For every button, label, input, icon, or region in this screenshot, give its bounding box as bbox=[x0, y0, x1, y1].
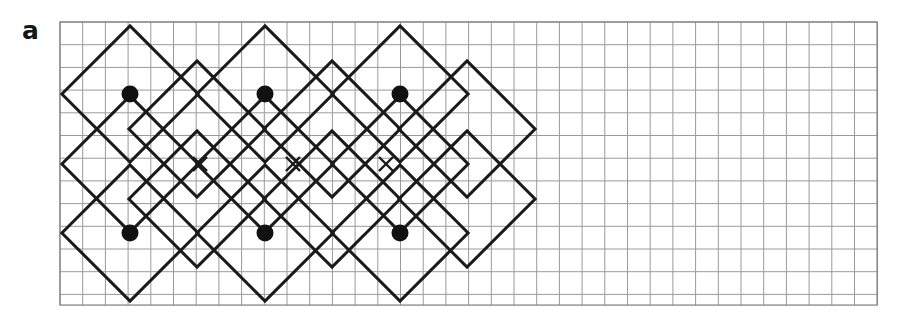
filled-circle bbox=[257, 225, 274, 242]
lattice-diagram bbox=[0, 0, 901, 331]
lattice-figure-panel: a bbox=[0, 0, 901, 331]
panel-label-a: a bbox=[22, 18, 39, 43]
cross-marker bbox=[379, 157, 393, 171]
filled-circle bbox=[122, 86, 139, 103]
filled-circle bbox=[392, 86, 409, 103]
filled-circle bbox=[122, 225, 139, 242]
filled-circle bbox=[392, 225, 409, 242]
filled-circle bbox=[257, 86, 274, 103]
